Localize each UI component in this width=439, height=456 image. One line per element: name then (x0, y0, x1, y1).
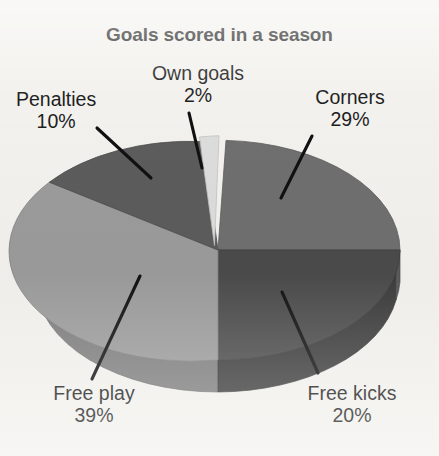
slice-label-free-play-value: 39% (24, 404, 164, 426)
slice-free-kicks (218, 250, 400, 360)
slice-label-corners-value: 29% (286, 108, 414, 130)
slice-label-own-goals: Own goals 2% (118, 62, 278, 106)
pie-top-face (9, 136, 400, 362)
slice-label-own-goals-name: Own goals (152, 62, 244, 84)
slice-label-free-play-name: Free play (53, 382, 134, 404)
slice-label-corners-name: Corners (315, 86, 384, 108)
slice-label-corners: Corners 29% (286, 86, 414, 130)
slice-label-penalties-name: Penalties (16, 88, 96, 110)
slice-label-own-goals-value: 2% (118, 84, 278, 106)
pie-chart-figure: Goals scored in a season (0, 0, 439, 456)
slice-label-free-kicks: Free kicks 20% (290, 382, 414, 426)
slice-label-free-play: Free play 39% (24, 382, 164, 426)
slice-label-free-kicks-value: 20% (290, 404, 414, 426)
slice-corners (218, 140, 400, 250)
slice-label-free-kicks-name: Free kicks (308, 382, 397, 404)
slice-label-penalties-value: 10% (16, 110, 96, 132)
slice-label-penalties: Penalties 10% (16, 88, 96, 132)
